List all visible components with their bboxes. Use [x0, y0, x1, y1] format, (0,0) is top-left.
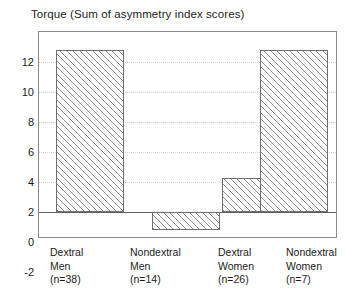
bar-nondextral-men	[152, 212, 220, 230]
x-label-dextral-men: Dextral Men (n=38)	[50, 246, 83, 287]
x-label-line: Women	[286, 260, 337, 274]
plot-area	[38, 31, 337, 238]
x-axis-category-labels: Dextral Men (n=38) Nondextral Men (n=14)…	[38, 246, 337, 292]
x-label-nondextral-men: Nondextral Men (n=14)	[130, 246, 181, 287]
torque-bar-chart: Torque (Sum of asymmetry index scores) 1…	[0, 0, 346, 295]
y-tick-label: 8	[4, 117, 34, 128]
x-label-line: Women	[218, 260, 254, 274]
x-label-line: Men	[50, 260, 83, 274]
x-label-nondextral-women: Nondextral Women (n=7)	[286, 246, 337, 287]
x-label-line: (n=38)	[50, 273, 83, 287]
x-label-line: (n=7)	[286, 273, 337, 287]
chart-title: Torque (Sum of asymmetry index scores)	[31, 8, 244, 20]
bar-nondextral-women	[260, 50, 328, 212]
x-label-line: Men	[130, 260, 181, 274]
x-label-line: Nondextral	[130, 246, 181, 260]
x-label-dextral-women: Dextral Women (n=26)	[218, 246, 254, 287]
y-tick-label: 10	[4, 87, 34, 98]
y-tick-label: 2	[4, 207, 34, 218]
y-tick-label: 4	[4, 177, 34, 188]
x-label-line: (n=14)	[130, 273, 181, 287]
bar-dextral-men	[56, 50, 124, 212]
y-tick-label: 6	[4, 147, 34, 158]
y-axis-tick-labels: 12 10 8 6 4 2 0 -2	[0, 31, 34, 238]
y-tick-label: 0	[4, 237, 34, 248]
x-label-line: Nondextral	[286, 246, 337, 260]
y-tick-label: -2	[4, 267, 34, 278]
x-label-line: (n=26)	[218, 273, 254, 287]
x-label-line: Dextral	[50, 246, 83, 260]
y-tick-label: 12	[4, 57, 34, 68]
x-label-line: Dextral	[218, 246, 254, 260]
